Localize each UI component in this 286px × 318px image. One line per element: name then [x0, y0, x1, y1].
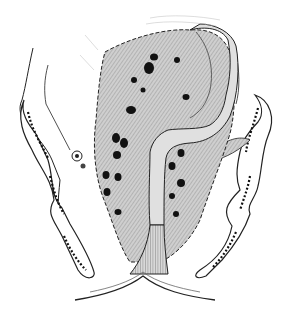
left-pelvic-bone	[20, 48, 94, 278]
pelvic-floor	[75, 272, 215, 300]
anatomical-figure	[0, 0, 286, 318]
